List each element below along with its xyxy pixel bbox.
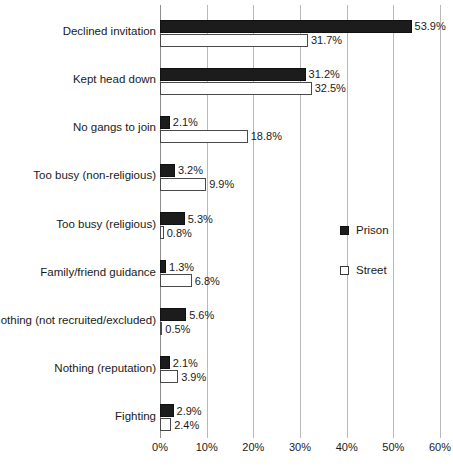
bar-row: 5.6% <box>160 308 440 321</box>
bar-row: 0.5% <box>160 322 440 335</box>
bar-street <box>160 370 178 383</box>
bar-value-label: 0.5% <box>162 323 190 335</box>
bar-row: 1.3% <box>160 260 440 273</box>
x-axis-line <box>160 438 441 439</box>
bar-street <box>160 82 312 95</box>
bar-value-label: 2.1% <box>170 357 198 369</box>
bar-value-label: 5.3% <box>185 213 213 225</box>
bar-value-label: 53.9% <box>412 20 446 32</box>
bar-street <box>160 178 206 191</box>
x-tick-label: 0% <box>152 441 168 453</box>
bar-row: 31.7% <box>160 34 440 47</box>
bar-value-label: 31.7% <box>308 34 342 46</box>
bar-street <box>160 274 192 287</box>
bar-value-label: 0.8% <box>164 227 192 239</box>
bar-row: 3.2% <box>160 164 440 177</box>
bar-prison <box>160 68 306 81</box>
x-tick-label: 30% <box>289 441 311 453</box>
x-tick-label: 10% <box>196 441 218 453</box>
x-tick-label: 20% <box>242 441 264 453</box>
bar-value-label: 2.9% <box>174 405 202 417</box>
category-label: Declined invitation <box>0 25 156 37</box>
category-label: Too busy (non-religious) <box>0 169 156 181</box>
bar-value-label: 1.3% <box>166 261 194 273</box>
bar-street <box>160 418 171 431</box>
bar-row: 2.1% <box>160 356 440 369</box>
bar-row: 31.2% <box>160 68 440 81</box>
bar-row: 32.5% <box>160 82 440 95</box>
bar-street <box>160 130 248 143</box>
bar-prison <box>160 20 412 33</box>
bar-prison <box>160 164 175 177</box>
bar-row: 3.9% <box>160 370 440 383</box>
bar-value-label: 18.8% <box>248 130 282 142</box>
category-label: Nothing (not recruited/excluded) <box>0 314 156 326</box>
bar-prison <box>160 116 170 129</box>
bar-prison <box>160 308 186 321</box>
bar-value-label: 5.6% <box>186 309 214 321</box>
bar-row: 6.8% <box>160 274 440 287</box>
bar-row: 0.8% <box>160 226 440 239</box>
bar-value-label: 31.2% <box>306 68 340 80</box>
bar-value-label: 2.4% <box>171 419 199 431</box>
bar-chart: Prison Street 0%10%20%30%40%50%60%Declin… <box>0 0 453 468</box>
category-label: Kept head down <box>0 73 156 85</box>
bar-row: 53.9% <box>160 20 440 33</box>
gridline-60pct <box>440 5 441 438</box>
category-label: Fighting <box>0 410 156 422</box>
x-tick-label: 60% <box>429 441 451 453</box>
bar-row: 9.9% <box>160 178 440 191</box>
x-tick-label: 40% <box>336 441 358 453</box>
bar-prison <box>160 404 174 417</box>
category-label: No gangs to join <box>0 121 156 133</box>
bar-value-label: 6.8% <box>192 275 220 287</box>
bar-prison <box>160 356 170 369</box>
bar-row: 5.3% <box>160 212 440 225</box>
bar-row: 2.9% <box>160 404 440 417</box>
bar-value-label: 32.5% <box>312 82 346 94</box>
bar-value-label: 9.9% <box>206 178 234 190</box>
bar-value-label: 3.9% <box>178 371 206 383</box>
bar-row: 2.4% <box>160 418 440 431</box>
bar-value-label: 2.1% <box>170 116 198 128</box>
bar-value-label: 3.2% <box>175 164 203 176</box>
category-label: Nothing (reputation) <box>0 362 156 374</box>
bar-row: 2.1% <box>160 116 440 129</box>
x-tick-label: 50% <box>382 441 404 453</box>
bar-row: 18.8% <box>160 130 440 143</box>
category-label: Family/friend guidance <box>0 266 156 278</box>
bar-street <box>160 34 308 47</box>
category-label: Too busy (religious) <box>0 218 156 230</box>
bar-prison <box>160 212 185 225</box>
